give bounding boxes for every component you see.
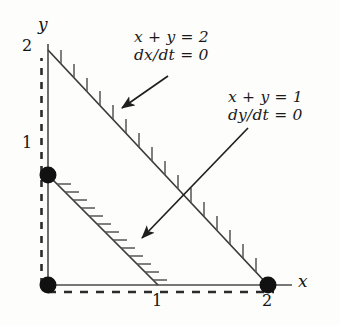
annotation-label-dydt: x + y = 1 dy/dt = 0	[228, 88, 303, 125]
nullcline-dydt-zero-line	[48, 175, 158, 285]
y-axis-label: y	[38, 14, 48, 34]
equilibrium-point-origin	[40, 277, 57, 294]
y-tick-label-1: 1	[22, 133, 32, 152]
nullcline-dydt-zero-hatches	[57, 184, 167, 280]
annotation-label-dydt-equation: x + y = 1	[228, 88, 303, 106]
y-tick-label-2: 2	[22, 36, 32, 55]
x-axis-label: x	[298, 271, 308, 291]
annotation-label-dxdt: x + y = 2 dx/dt = 0	[134, 28, 209, 65]
annotation-label-dxdt-derivative: dx/dt = 0	[134, 46, 209, 64]
annotation-arrow-dydt	[142, 128, 248, 238]
x-tick-label-1: 1	[152, 291, 162, 310]
equilibrium-point-y-axis	[40, 167, 57, 184]
nullcline-dxdt-zero-line	[48, 50, 268, 285]
annotation-label-dxdt-equation: x + y = 2	[134, 28, 209, 46]
x-tick-label-2: 2	[262, 291, 272, 310]
nullcline-dxdt-zero	[48, 50, 268, 285]
annotation-arrow-dxdt	[122, 76, 168, 108]
annotation-label-dydt-derivative: dy/dt = 0	[228, 106, 303, 124]
